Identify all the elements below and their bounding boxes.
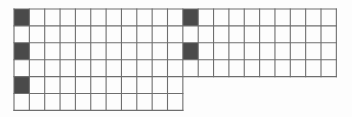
- grid-cell-marked: [14, 43, 29, 60]
- grid-cell-marked: [183, 43, 198, 60]
- grid-canvas: [0, 0, 352, 117]
- grid-cell-marked: [14, 77, 29, 94]
- grid-cell-marked: [183, 9, 198, 26]
- grid-lines-layer: [14, 9, 336, 110]
- grid-figure: [0, 0, 352, 117]
- grid-cell-marked: [14, 9, 29, 26]
